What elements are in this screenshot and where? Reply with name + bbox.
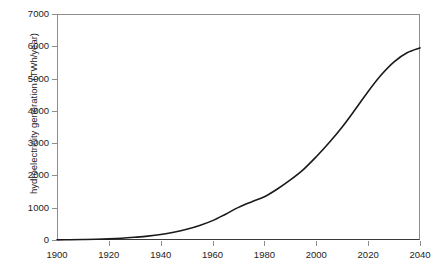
y-axis-tick-label: 2000 <box>28 170 49 180</box>
chart-figure: hydroelectricity generation (TWh/year) 0… <box>0 0 441 276</box>
x-axis-tick-mark <box>368 241 369 246</box>
y-axis-tick-mark <box>52 240 57 241</box>
x-axis-tick-label: 1900 <box>37 249 77 260</box>
y-axis-tick-mark <box>52 175 57 176</box>
x-axis-tick-mark <box>420 241 421 246</box>
y-axis-tick-label: 5000 <box>28 74 49 84</box>
y-axis-tick-label: 1000 <box>28 203 49 213</box>
x-axis-tick-mark <box>161 241 162 246</box>
x-axis-tick-label: 1940 <box>141 249 181 260</box>
y-axis-tick-mark <box>52 111 57 112</box>
x-axis-tick-mark <box>264 241 265 246</box>
y-axis-tick-label: 0 <box>44 235 49 245</box>
y-axis-tick-mark <box>52 208 57 209</box>
x-axis-tick-label: 1920 <box>89 249 129 260</box>
x-axis-tick-mark <box>213 241 214 246</box>
y-axis-tick-labels: 01000200030004000500060007000 <box>0 0 49 276</box>
y-axis-tick-mark <box>52 14 57 15</box>
x-axis-tick-mark <box>109 241 110 246</box>
chart-plot-svg <box>57 14 420 240</box>
x-axis-tick-mark <box>316 241 317 246</box>
data-series-line-hydroelectricity-generation <box>57 48 420 240</box>
y-axis-tick-label: 3000 <box>28 138 49 148</box>
x-axis-tick-label: 2000 <box>296 249 336 260</box>
y-axis-tick-label: 4000 <box>28 106 49 116</box>
y-axis-tick-mark <box>52 79 57 80</box>
x-axis-tick-label: 2040 <box>400 249 440 260</box>
y-axis-tick-mark <box>52 143 57 144</box>
x-axis-tick-label: 1960 <box>193 249 233 260</box>
x-axis-tick-label: 1980 <box>244 249 284 260</box>
y-axis-tick-label: 6000 <box>28 41 49 51</box>
x-axis-tick-label: 2020 <box>348 249 388 260</box>
y-axis-tick-label: 7000 <box>28 9 49 19</box>
y-axis-tick-mark <box>52 46 57 47</box>
